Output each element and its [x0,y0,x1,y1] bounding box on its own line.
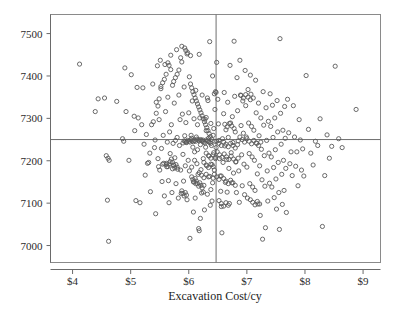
x-tick-label: $9 [358,275,370,287]
y-tick-label: 7000 [21,240,44,252]
y-tick-label: 7100 [21,197,44,209]
x-axis-title: Excavation Cost/cy [168,289,262,303]
plot-svg: 700071007200730074007500 $4$5$6$7$8$9 Ex… [0,0,396,315]
y-tick-label: 7200 [21,155,44,167]
x-tick-label: $7 [241,275,253,287]
y-tick-label: 7500 [21,28,44,40]
figure-background [0,0,396,315]
x-tick-label: $6 [183,275,195,287]
x-tick-label: $5 [125,275,137,287]
scatter-plot-figure: 700071007200730074007500 $4$5$6$7$8$9 Ex… [0,0,396,315]
x-tick-label: $4 [67,275,79,287]
y-tick-label: 7300 [21,112,44,124]
y-tick-label: 7400 [21,70,44,82]
x-tick-label: $8 [299,275,311,287]
